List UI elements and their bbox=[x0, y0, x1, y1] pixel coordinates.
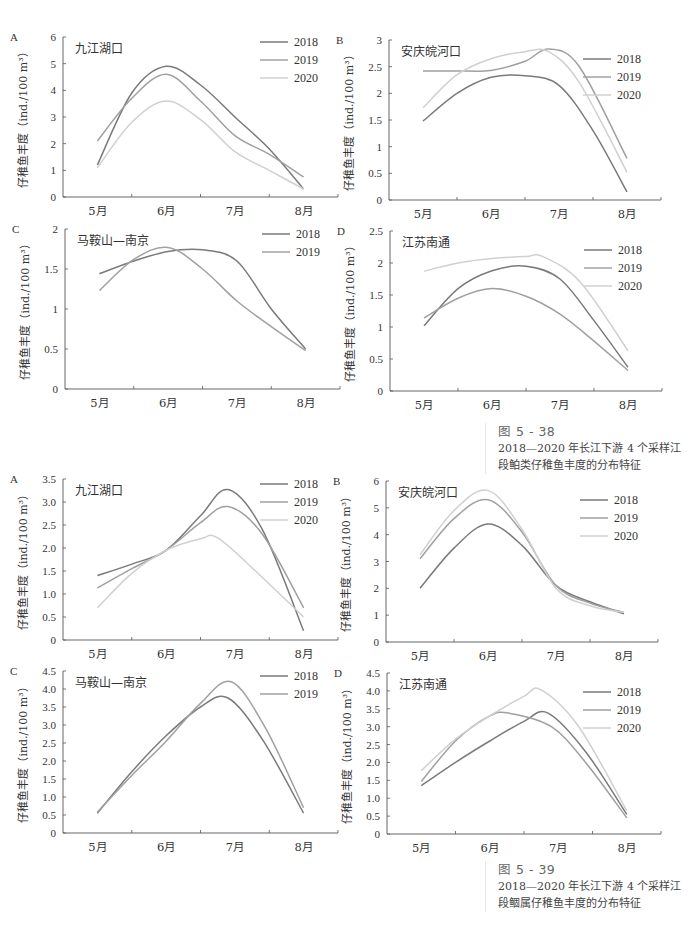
y-tick-label: 0.5 bbox=[44, 343, 58, 355]
y-tick-label: 0 bbox=[51, 827, 57, 839]
x-tick-label: 8月 bbox=[294, 840, 312, 854]
series-line-2020 bbox=[97, 535, 303, 617]
y-tick-label: 1 bbox=[378, 321, 384, 333]
x-tick-label: 7月 bbox=[228, 396, 246, 410]
series-line-2020 bbox=[421, 688, 627, 811]
legend-label: 2019 bbox=[618, 261, 642, 275]
y-tick-label: 0.5 bbox=[368, 167, 382, 179]
x-tick-label: 5月 bbox=[415, 398, 433, 412]
y-tick-label: 2 bbox=[53, 223, 59, 235]
y-tick-label: 2.0 bbox=[42, 542, 56, 554]
y-tick-label: 0 bbox=[374, 636, 380, 648]
legend-label: 2018 bbox=[617, 685, 641, 699]
y-tick-label: 4 bbox=[51, 84, 57, 96]
y-tick-label: 0 bbox=[51, 634, 57, 646]
panel-title: 九江湖口 bbox=[75, 41, 123, 56]
x-tick-label: 6月 bbox=[159, 396, 177, 410]
y-tick-label: 3.0 bbox=[42, 719, 56, 731]
series-line-2019 bbox=[99, 247, 305, 350]
y-tick-label: 0 bbox=[378, 385, 384, 397]
x-tick-label: 5月 bbox=[88, 204, 106, 218]
panel-title: 江苏南通 bbox=[399, 677, 447, 692]
legend-label: 2018 bbox=[294, 35, 318, 49]
y-tick-label: 3.0 bbox=[42, 496, 56, 508]
x-tick-label: 7月 bbox=[226, 840, 244, 854]
x-tick-label: 8月 bbox=[294, 204, 312, 218]
legend-label: 2018 bbox=[614, 493, 638, 507]
y-tick-label: 2 bbox=[374, 582, 380, 594]
chart-panel-5-39-c: C00.51.01.52.02.53.03.54.04.55月6月7月8月仔稚鱼… bbox=[0, 659, 345, 861]
x-tick-label: 6月 bbox=[157, 840, 175, 854]
x-tick-label: 5月 bbox=[90, 396, 108, 410]
panel-title: 江苏南通 bbox=[402, 235, 450, 250]
y-tick-label: 2.0 bbox=[42, 755, 56, 767]
panel-title: 马鞍山—南京 bbox=[77, 233, 149, 248]
series-line-2020 bbox=[97, 101, 303, 189]
x-tick-label: 7月 bbox=[551, 398, 569, 412]
figure-caption-5-38: 图 5 - 38 2018—2020 年长江下游 4 个采样江 段鲌类仔稚鱼丰度… bbox=[485, 423, 681, 474]
y-axis-label: 仔稚鱼丰度（ind./100 m³） bbox=[16, 681, 30, 822]
y-tick-label: 0 bbox=[51, 191, 57, 203]
legend-label: 2019 bbox=[614, 511, 638, 525]
y-tick-label: 2.5 bbox=[42, 737, 56, 749]
series-line-2020 bbox=[423, 49, 627, 172]
x-tick-label: 7月 bbox=[226, 204, 244, 218]
legend-label: 2019 bbox=[617, 70, 641, 84]
y-tick-label: 4.0 bbox=[42, 683, 56, 695]
y-tick-label: 1.5 bbox=[42, 565, 56, 577]
panel-label: A bbox=[10, 473, 18, 485]
y-tick-label: 1 bbox=[377, 141, 383, 153]
legend-label: 2019 bbox=[296, 245, 320, 259]
series-line-2018 bbox=[420, 524, 624, 614]
y-tick-label: 2 bbox=[378, 257, 384, 269]
series-line-2019 bbox=[97, 681, 303, 812]
x-tick-label: 8月 bbox=[619, 398, 637, 412]
series-line-2018 bbox=[423, 75, 627, 192]
y-axis-label: 仔稚鱼丰度（ind./100 m³） bbox=[339, 491, 353, 632]
panel-label: B bbox=[333, 475, 340, 487]
legend-label: 2018 bbox=[294, 669, 318, 683]
x-tick-label: 5月 bbox=[412, 841, 430, 855]
y-tick-label: 5 bbox=[51, 58, 57, 70]
y-axis-label: 仔稚鱼丰度（ind./100 m³） bbox=[16, 46, 30, 187]
panel-label: B bbox=[336, 34, 343, 46]
panel-title: 九江湖口 bbox=[75, 483, 123, 498]
series-line-2018 bbox=[97, 489, 303, 630]
y-tick-label: 1.5 bbox=[366, 774, 380, 786]
x-tick-label: 7月 bbox=[549, 841, 567, 855]
y-tick-label: 2 bbox=[377, 87, 383, 99]
legend-label: 2019 bbox=[617, 703, 641, 717]
chart-panel-5-38-a: A01234565月6月7月8月仔稚鱼丰度（ind./100 m³）九江湖口20… bbox=[0, 25, 345, 225]
x-tick-label: 5月 bbox=[88, 840, 106, 854]
series-line-2018 bbox=[97, 696, 303, 813]
legend-label: 2020 bbox=[618, 279, 642, 293]
panel-label: C bbox=[10, 665, 17, 677]
panel-label: D bbox=[334, 667, 342, 679]
panel-title: 马鞍山—南京 bbox=[75, 675, 147, 690]
y-tick-label: 5 bbox=[374, 502, 380, 514]
series-line-2018 bbox=[424, 266, 628, 368]
series-line-2018 bbox=[97, 66, 303, 189]
x-tick-label: 8月 bbox=[296, 396, 314, 410]
y-tick-label: 3.5 bbox=[366, 703, 380, 715]
y-axis-label: 仔稚鱼丰度（ind./100 m³） bbox=[18, 238, 32, 379]
figure-caption-line: 2018—2020 年长江下游 4 个采样江 bbox=[498, 878, 681, 895]
y-tick-label: 3.0 bbox=[366, 721, 380, 733]
legend-label: 2020 bbox=[294, 71, 318, 85]
y-tick-label: 2.0 bbox=[366, 756, 380, 768]
y-tick-label: 1.5 bbox=[44, 263, 58, 275]
y-axis-label: 仔稚鱼丰度（ind./100 m³） bbox=[16, 489, 30, 630]
y-tick-label: 4.5 bbox=[42, 665, 56, 677]
figure-caption-5-39: 图 5 - 39 2018—2020 年长江下游 4 个采样江 段鲴属仔稚鱼丰度… bbox=[485, 861, 681, 912]
panel-label: C bbox=[12, 223, 19, 235]
y-tick-label: 3.5 bbox=[42, 701, 56, 713]
x-tick-label: 6月 bbox=[483, 398, 501, 412]
y-tick-label: 1 bbox=[53, 303, 59, 315]
y-tick-label: 2.5 bbox=[366, 739, 380, 751]
y-tick-label: 0 bbox=[377, 194, 383, 206]
y-tick-label: 2 bbox=[51, 138, 57, 150]
y-tick-label: 0 bbox=[53, 383, 59, 395]
x-tick-label: 6月 bbox=[481, 841, 499, 855]
y-tick-label: 1 bbox=[51, 164, 57, 176]
y-tick-label: 4.5 bbox=[366, 667, 380, 679]
